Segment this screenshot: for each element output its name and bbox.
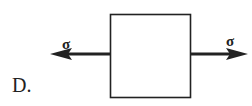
sigma-left-label: σ [62,36,71,52]
right-stress-arrow [191,48,248,60]
square-element [111,15,191,98]
stress-element-diagram: σ σ [0,0,252,106]
sigma-right-label: σ [226,33,235,49]
left-stress-arrow [50,48,110,60]
